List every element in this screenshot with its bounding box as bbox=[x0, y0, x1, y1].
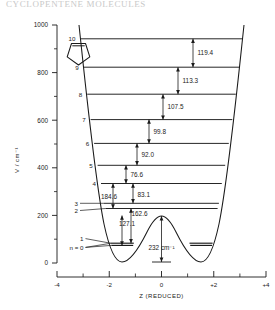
level-label-4: 4 bbox=[93, 180, 97, 187]
y-tick-label-400: 400 bbox=[37, 164, 48, 171]
transition-2-3: 184.6 bbox=[101, 184, 117, 209]
ground-state-labels: 1 n = 0 bbox=[70, 235, 112, 251]
x-tick-label-neg4: -4 bbox=[54, 281, 60, 288]
transition-value-3-4: 83.1 bbox=[138, 191, 151, 198]
level-label-5: 5 bbox=[89, 162, 93, 169]
y-tick-label-1000: 1000 bbox=[34, 21, 49, 28]
x-tick-label-neg2: -2 bbox=[106, 281, 112, 288]
transition-value-1-2: 162.6 bbox=[132, 210, 148, 217]
barrier-height-label: 232 cm⁻¹ bbox=[148, 244, 174, 251]
transition-7-8: 107.5 bbox=[161, 94, 184, 119]
level-label-8: 8 bbox=[79, 91, 83, 98]
y-tick-label-0: 0 bbox=[44, 259, 48, 266]
transition-value-8-9: 113.3 bbox=[183, 77, 199, 84]
transition-value-2-3: 184.6 bbox=[101, 193, 117, 200]
transition-value-6-7: 99.8 bbox=[154, 128, 167, 135]
level-label-10: 10 bbox=[69, 35, 76, 42]
y-axis-title: V / cm⁻¹ bbox=[14, 147, 20, 173]
level-label-7: 7 bbox=[82, 116, 86, 123]
level-label-2: 2 bbox=[75, 207, 79, 214]
transition-6-7: 99.8 bbox=[147, 120, 166, 144]
transition-arrows: 119.4 113.3 107.5 99.8 bbox=[101, 39, 213, 246]
x-axis: -4 -2 0 +2 +4 Z (REDUCED) bbox=[54, 271, 270, 299]
transition-3-4: 83.1 bbox=[131, 184, 150, 204]
figure-root: CYCLOPENTENE MOLECULES 0 200 400 600 800… bbox=[0, 0, 275, 310]
transition-8-9: 113.3 bbox=[176, 67, 198, 94]
transition-value-7-8: 107.5 bbox=[168, 103, 184, 110]
potential-energy-diagram: 0 200 400 600 800 1000 V / cm⁻¹ -4 -2 bbox=[0, 0, 275, 310]
transition-9-10: 119.4 bbox=[191, 39, 213, 67]
y-tick-label-200: 200 bbox=[37, 212, 48, 219]
level-label-3: 3 bbox=[75, 200, 79, 207]
level-label-6: 6 bbox=[86, 140, 90, 147]
transition-5-6: 92.0 bbox=[135, 143, 154, 165]
transition-value-4-5: 76.6 bbox=[131, 171, 144, 178]
transition-0-1: 127.1 bbox=[119, 216, 135, 246]
x-axis-title: Z (REDUCED) bbox=[139, 293, 184, 299]
transition-value-0-1: 127.1 bbox=[119, 220, 135, 227]
cyclopentene-ring-icon bbox=[67, 44, 90, 66]
y-tick-label-600: 600 bbox=[37, 117, 48, 124]
y-tick-label-800: 800 bbox=[37, 69, 48, 76]
transition-value-5-6: 92.0 bbox=[142, 151, 155, 158]
x-tick-label-0: 0 bbox=[160, 281, 164, 288]
level-label-1: 1 bbox=[80, 235, 84, 242]
energy-levels bbox=[81, 39, 243, 246]
transition-value-9-10: 119.4 bbox=[198, 49, 214, 56]
x-tick-label-pos4: +4 bbox=[262, 281, 270, 288]
x-tick-label-pos2: +2 bbox=[210, 281, 218, 288]
transition-4-5: 76.6 bbox=[124, 165, 143, 183]
y-axis: 0 200 400 600 800 1000 V / cm⁻¹ bbox=[14, 21, 57, 266]
level-label-n0: n = 0 bbox=[70, 244, 84, 251]
